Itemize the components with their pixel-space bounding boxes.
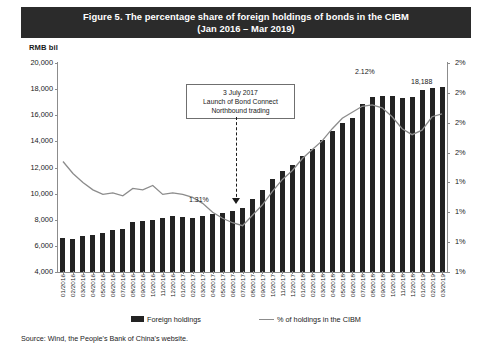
x-axis-tick-label: 10/2018 xyxy=(389,274,396,297)
x-axis-tick-label: 01/2016 xyxy=(59,274,66,297)
y-axis-left-tick-label: 20,000 xyxy=(11,58,53,67)
x-axis-tick-label: 02/2018 xyxy=(309,274,316,297)
y-axis-right-tick-label: 2% xyxy=(455,58,485,67)
annotation-line-2: Launch of Bond Connect xyxy=(203,97,278,106)
chart-legend: Foreign holdings % of holdings in the CI… xyxy=(0,311,492,327)
data-label-last-bar: 18,188 xyxy=(411,78,432,85)
x-axis-tick-label: 01/2018 xyxy=(299,274,306,297)
source-note: Source: Wind, the People's Bank of China… xyxy=(21,334,188,343)
x-axis-tick-label: 03/2018 xyxy=(319,274,326,297)
x-axis-tick-label: 02/2016 xyxy=(69,274,76,297)
y-axis-right-tick-label: 2% xyxy=(455,88,485,97)
legend-item-foreign-holdings: Foreign holdings xyxy=(131,315,201,324)
y-axis-left-tick-label: 16,000 xyxy=(11,110,53,119)
data-label-low-point: 1.31% xyxy=(189,196,209,203)
x-axis-tick-label: 08/2016 xyxy=(129,274,136,297)
x-axis-tick-label: 01/2019 xyxy=(419,274,426,297)
legend-bar-swatch-icon xyxy=(131,316,144,322)
x-axis-tick-label: 06/2018 xyxy=(349,274,356,297)
x-axis-tick-label: 05/2017 xyxy=(219,274,226,297)
y-axis-right-tick xyxy=(447,242,450,243)
annotation-box-bond-connect: 3 July 2017 Launch of Bond Connect North… xyxy=(186,84,295,119)
x-axis-tick-label: 07/2016 xyxy=(119,274,126,297)
annotation-leader-line xyxy=(236,117,237,202)
x-axis-labels: 01/201602/201603/201604/201605/201606/20… xyxy=(58,274,447,314)
x-axis-tick-label: 03/2019 xyxy=(439,274,446,297)
x-axis-tick-label: 10/2016 xyxy=(149,274,156,297)
x-axis-tick-label: 04/2016 xyxy=(89,274,96,297)
legend-label-percent-holdings: % of holdings in the CIBM xyxy=(277,315,361,324)
legend-item-percent-holdings: % of holdings in the CIBM xyxy=(259,315,361,324)
y-axis-right-tick xyxy=(447,153,450,154)
y-axis-right-tick-label: 1% xyxy=(455,267,485,276)
x-axis-tick-label: 04/2017 xyxy=(209,274,216,297)
figure-title-line-1: Figure 5. The percentage share of foreig… xyxy=(83,11,409,23)
y-axis-left-tick-label: 18,000 xyxy=(11,84,53,93)
x-axis-tick-label: 09/2016 xyxy=(139,274,146,297)
x-axis-tick-label: 08/2017 xyxy=(249,274,256,297)
y-axis-right-tick xyxy=(447,123,450,124)
annotation-line-1: 3 July 2017 xyxy=(223,88,258,97)
y-axis-left-tick-label: 14,000 xyxy=(11,136,53,145)
x-axis-tick-label: 05/2018 xyxy=(339,274,346,297)
x-axis-tick-label: 07/2017 xyxy=(239,274,246,297)
x-axis-tick-label: 08/2018 xyxy=(369,274,376,297)
legend-line-swatch-icon xyxy=(259,319,274,320)
x-axis-tick-label: 02/2017 xyxy=(189,274,196,297)
y-axis-right-tick-label: 1% xyxy=(455,207,485,216)
annotation-line-3: Northbound trading xyxy=(211,106,269,115)
legend-label-foreign-holdings: Foreign holdings xyxy=(147,315,201,324)
y-axis-right-tick-label: 1% xyxy=(455,177,485,186)
y-axis-left-tick-label: 4,000 xyxy=(11,267,53,276)
x-axis-tick-label: 12/2017 xyxy=(289,274,296,297)
annotation-arrow-icon xyxy=(232,198,240,204)
y-axis-right-tick-label: 1% xyxy=(455,237,485,246)
y-axis-right-tick-label: 2% xyxy=(455,148,485,157)
figure-container: Figure 5. The percentage share of foreig… xyxy=(0,0,492,353)
y-axis-left-tick-label: 10,000 xyxy=(11,189,53,198)
x-axis-tick-label: 03/2017 xyxy=(199,274,206,297)
y-axis-left-tick xyxy=(55,272,58,273)
x-axis-tick-label: 11/2018 xyxy=(399,274,406,297)
x-axis-tick-label: 06/2017 xyxy=(229,274,236,297)
data-label-peak: 2.12% xyxy=(355,68,375,75)
x-axis-tick-label: 11/2016 xyxy=(159,274,166,297)
x-axis-tick-label: 07/2018 xyxy=(359,274,366,297)
x-axis-tick-label: 12/2018 xyxy=(409,274,416,297)
x-axis-tick-label: 05/2016 xyxy=(99,274,106,297)
y-axis-right-tick xyxy=(447,212,450,213)
y-axis-left-tick-label: 8,000 xyxy=(11,215,53,224)
y-axis-right-tick-label: 2% xyxy=(455,118,485,127)
figure-title-bar: Figure 5. The percentage share of foreig… xyxy=(21,7,471,38)
y-axis-left-tick-label: 12,000 xyxy=(11,163,53,172)
x-axis-tick-label: 09/2017 xyxy=(259,274,266,297)
y-axis-left-tick-label: 6,000 xyxy=(11,241,53,250)
y-axis-right-tick xyxy=(447,272,450,273)
y-axis-right-tick xyxy=(447,93,450,94)
figure-title-line-2: (Jan 2016 – Mar 2019) xyxy=(197,23,294,35)
x-axis-tick-label: 01/2017 xyxy=(179,274,186,297)
x-axis-tick-label: 02/2019 xyxy=(429,274,436,297)
x-axis-tick-label: 06/2016 xyxy=(109,274,116,297)
x-axis-tick-label: 09/2018 xyxy=(379,274,386,297)
y-axis-unit-label: RMB bil xyxy=(29,43,58,52)
x-axis-tick-label: 11/2017 xyxy=(279,274,286,297)
x-axis-tick-label: 12/2016 xyxy=(169,274,176,297)
x-axis-tick-label: 04/2018 xyxy=(329,274,336,297)
x-axis-tick-label: 03/2016 xyxy=(79,274,86,297)
y-axis-right-tick xyxy=(447,63,450,64)
x-axis-tick-label: 10/2017 xyxy=(269,274,276,297)
y-axis-right-tick xyxy=(447,182,450,183)
